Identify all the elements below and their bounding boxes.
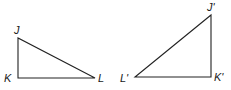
vertex-label-l: L <box>98 72 104 84</box>
triangle-jkl-prime-shape <box>135 15 211 77</box>
vertex-label-l-prime: L' <box>120 72 129 84</box>
vertex-label-k: K <box>4 72 12 84</box>
vertex-label-k-prime: K' <box>214 71 224 83</box>
triangle-jkl-prime: J' K' L' <box>120 1 224 84</box>
triangle-diagram: J K L J' K' L' <box>0 0 231 90</box>
triangle-jkl-shape <box>18 38 95 78</box>
vertex-label-j: J <box>13 24 20 36</box>
triangle-jkl: J K L <box>4 24 104 84</box>
vertex-label-j-prime: J' <box>206 1 216 13</box>
